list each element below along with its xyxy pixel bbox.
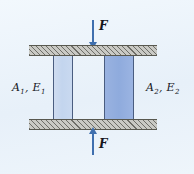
member-right-modulus-symbol: E [167, 81, 175, 94]
member-left-modulus-symbol: E [33, 81, 41, 94]
member-right-modulus-subscript: 2 [175, 88, 180, 96]
arrowhead-up-icon [89, 127, 97, 134]
member-left-area-symbol: A [12, 81, 20, 94]
member-right-label: A2, E2 [146, 82, 180, 96]
force-arrow-top-down-icon [92, 20, 94, 43]
member-left-separator: , [25, 81, 29, 94]
member-left-modulus-subscript: 1 [41, 88, 46, 96]
mechanics-figure: F A1, E1 A2, E2 F [0, 0, 194, 174]
force-label-top: F [99, 20, 108, 32]
force-label-bottom: F [99, 138, 108, 150]
member-right-column [104, 56, 134, 119]
rigid-plate-top [29, 45, 157, 56]
member-left-column [53, 56, 73, 119]
member-left-label: A1, E1 [12, 82, 46, 96]
member-right-area-symbol: A [146, 81, 154, 94]
member-right-separator: , [159, 81, 163, 94]
force-arrow-bottom-up-icon [92, 133, 94, 155]
